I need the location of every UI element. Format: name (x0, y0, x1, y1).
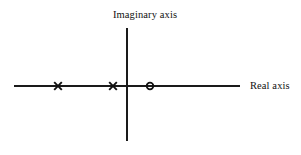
pole-marker-1 (52, 80, 64, 92)
pole-marker-2 (107, 80, 119, 92)
real-axis-label: Real axis (250, 80, 290, 91)
zero-marker-1 (144, 80, 156, 92)
imaginary-axis-label: Imaginary axis (113, 9, 177, 20)
pole-zero-plot: Imaginary axis Real axis (0, 0, 301, 155)
imaginary-axis-line (126, 28, 128, 141)
